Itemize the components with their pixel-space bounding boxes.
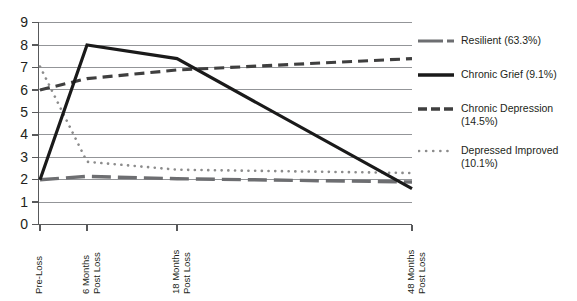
y-tick-label-4: 4 <box>2 127 28 141</box>
line-chart-figure: 9 8 7 6 5 4 3 2 1 0 Pre-Loss 6 Months Po… <box>0 0 577 301</box>
x-tick-line2: Post Loss <box>417 250 428 294</box>
legend-key-solid-icon <box>418 68 454 82</box>
legend-item-chronic-depression[interactable]: Chronic Depression (14.5%) <box>418 102 577 127</box>
legend-label-main: Chronic Depression <box>461 102 553 114</box>
legend-item-resilient[interactable]: Resilient (63.3%) <box>418 34 577 48</box>
legend-label-main: Depressed Improved <box>461 144 558 156</box>
x-tick-line1: 48 Months <box>405 250 416 294</box>
y-tick-label-1: 1 <box>2 195 28 209</box>
y-tick-label-6: 6 <box>2 83 28 97</box>
y-tick-label-7: 7 <box>2 60 28 74</box>
y-tick-label-8: 8 <box>2 38 28 52</box>
legend-key-dash-icon <box>418 102 454 116</box>
x-axis-ticks <box>40 225 412 231</box>
legend-label-sub: (10.1%) <box>461 157 558 170</box>
x-tick-line2: Post Loss <box>92 252 103 294</box>
x-tick-line2: Post Loss <box>182 250 193 294</box>
legend-label-depressed-improved: Depressed Improved (10.1%) <box>461 144 558 169</box>
legend-key-long-dash-icon <box>418 34 454 48</box>
y-axis-ticks <box>32 23 38 225</box>
series-line-chronic-grief <box>40 45 412 189</box>
x-tick-label-18-months: 18 Months Post Loss <box>171 250 192 294</box>
y-tick-label-0: 0 <box>2 217 28 231</box>
y-tick-label-3: 3 <box>2 150 28 164</box>
legend-item-chronic-grief[interactable]: Chronic Grief (9.1%) <box>418 68 577 82</box>
legend-key-dotted-icon <box>418 144 454 158</box>
legend-label-main: Chronic Grief (9.1%) <box>461 68 557 80</box>
x-tick-label-48-months: 48 Months Post Loss <box>406 250 427 294</box>
legend-label-sub: (14.5%) <box>461 115 553 128</box>
y-tick-label-2: 2 <box>2 172 28 186</box>
x-tick-line1: 6 Months <box>80 255 91 294</box>
y-tick-label-5: 5 <box>2 105 28 119</box>
x-tick-line1: 18 Months <box>170 250 181 294</box>
x-tick-label-6-months: 6 Months Post Loss <box>81 252 102 294</box>
x-tick-label-pre-loss: Pre-Loss <box>34 256 45 294</box>
y-tick-label-9: 9 <box>2 15 28 29</box>
legend-label-resilient: Resilient (63.3%) <box>461 34 541 47</box>
legend-label-chronic-depression: Chronic Depression (14.5%) <box>461 102 553 127</box>
legend-label-main: Resilient (63.3%) <box>461 34 541 46</box>
chart-page: 9 8 7 6 5 4 3 2 1 0 Pre-Loss 6 Months Po… <box>0 0 577 301</box>
legend-item-depressed-improved[interactable]: Depressed Improved (10.1%) <box>418 144 577 169</box>
legend-label-chronic-grief: Chronic Grief (9.1%) <box>461 68 557 81</box>
x-tick-line1: Pre-Loss <box>33 256 44 294</box>
